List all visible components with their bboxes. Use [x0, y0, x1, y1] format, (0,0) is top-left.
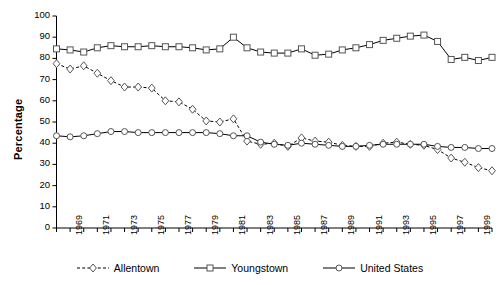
data-point [203, 117, 210, 125]
data-point [203, 47, 209, 53]
chart-legend: AllentownYoungstownUnited States [0, 258, 499, 278]
legend-item-youngstown[interactable]: Youngstown [193, 262, 288, 274]
data-point [149, 130, 155, 136]
x-tick-label: 1991 [374, 215, 384, 235]
data-point [216, 118, 223, 126]
x-tick-label: 1975 [156, 215, 166, 235]
data-point [394, 35, 400, 41]
data-point [435, 143, 441, 149]
data-point [217, 46, 223, 52]
data-point [94, 45, 100, 51]
data-point [475, 146, 481, 152]
data-point [353, 143, 359, 149]
y-tick-label: 50 [22, 115, 50, 126]
y-tick-label: 70 [22, 73, 50, 84]
series-line [57, 64, 493, 171]
data-point [54, 46, 60, 52]
data-point [122, 129, 128, 135]
data-point [121, 83, 128, 91]
x-tick-label: 1987 [319, 215, 329, 235]
series-youngstown [54, 32, 496, 63]
data-point [367, 42, 373, 48]
x-tick-label: 1985 [292, 215, 302, 235]
data-point [108, 43, 114, 49]
x-tick-label: 1993 [401, 215, 411, 235]
data-point [54, 133, 60, 139]
data-point [67, 47, 73, 53]
data-point [258, 139, 264, 145]
data-point [339, 47, 345, 53]
data-point [135, 130, 141, 136]
data-point [94, 131, 100, 137]
x-tick-label: 1977 [183, 215, 193, 235]
data-point [298, 46, 304, 52]
x-tick-label: 1997 [455, 215, 465, 235]
data-point [67, 134, 73, 140]
data-point [94, 69, 101, 77]
x-tick-label: 1969 [74, 215, 84, 235]
data-point [190, 45, 196, 51]
data-point [475, 58, 481, 64]
y-tick-label: 20 [22, 179, 50, 190]
data-point [298, 140, 304, 146]
plot-area [0, 0, 499, 285]
legend-swatch-circle-icon [322, 262, 356, 274]
data-point [394, 141, 400, 147]
data-point [81, 49, 87, 55]
data-point [448, 144, 454, 150]
data-point [312, 52, 318, 58]
line-chart: Percentage AllentownYoungstownUnited Sta… [0, 0, 499, 285]
x-tick-label: 1983 [265, 215, 275, 235]
data-point [53, 60, 60, 68]
legend-item-allentown[interactable]: Allentown [76, 262, 160, 274]
x-tick-label: 1995 [428, 215, 438, 235]
data-point [312, 141, 318, 147]
data-point [407, 141, 413, 147]
data-point [258, 49, 264, 55]
data-point [244, 133, 250, 139]
legend-swatch-diamond-icon [76, 262, 110, 274]
legend-label: United States [360, 262, 423, 274]
y-tick-label: 100 [22, 9, 50, 20]
data-point [407, 33, 413, 39]
data-point [421, 32, 427, 38]
data-point [108, 129, 114, 135]
data-point [380, 141, 386, 147]
data-point [475, 164, 482, 172]
data-point [176, 98, 183, 106]
data-point [339, 143, 345, 149]
legend-label: Youngstown [231, 262, 288, 274]
x-tick-label: 1999 [482, 215, 492, 235]
data-point [353, 45, 359, 51]
y-tick-label: 90 [22, 30, 50, 41]
data-point [448, 56, 454, 62]
data-point [80, 62, 87, 70]
data-point [326, 142, 332, 148]
data-point [176, 130, 182, 136]
data-point [190, 130, 196, 136]
data-point [217, 131, 223, 137]
data-point [135, 44, 141, 50]
data-point [367, 142, 373, 148]
data-point [176, 44, 182, 50]
data-point [108, 77, 115, 85]
x-tick-label: 1989 [346, 215, 356, 235]
x-tick-label: 1973 [129, 215, 139, 235]
data-point [135, 83, 142, 91]
legend-item-united-states[interactable]: United States [322, 262, 423, 274]
data-point [326, 51, 332, 57]
data-point [489, 54, 495, 60]
data-point [435, 38, 441, 44]
data-point [461, 158, 468, 166]
legend-label: Allentown [114, 262, 160, 274]
data-point [489, 167, 496, 175]
data-point [149, 43, 155, 49]
y-tick-label: 60 [22, 94, 50, 105]
data-point [122, 44, 128, 50]
data-point [162, 44, 168, 50]
data-point [489, 146, 495, 152]
y-tick-label: 0 [22, 221, 50, 232]
series-allentown [53, 60, 495, 175]
data-point [244, 45, 250, 51]
y-tick-label: 10 [22, 200, 50, 211]
